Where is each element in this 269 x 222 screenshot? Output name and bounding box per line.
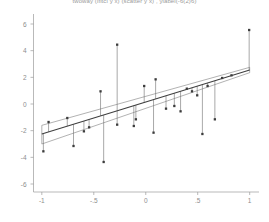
data-point-marker xyxy=(66,117,68,119)
chart-root: twoway (lfitci y x) (scatter y x) , ylab… xyxy=(0,0,269,222)
x-axis-tick-label: 1 xyxy=(240,197,260,204)
x-axis-tick-label: 0 xyxy=(136,197,156,204)
confidence-band xyxy=(42,67,250,144)
data-point-marker xyxy=(214,118,216,120)
data-point-marker xyxy=(72,145,74,147)
data-point-marker xyxy=(116,124,118,126)
y-axis-tick-label: -6 xyxy=(13,181,27,188)
data-point-marker xyxy=(88,126,90,128)
y-axis-tick-label: -4 xyxy=(13,154,27,161)
y-axis-tick-label: -2 xyxy=(13,127,27,134)
data-point-marker xyxy=(47,121,49,123)
data-point-marker xyxy=(206,85,208,87)
plot-canvas xyxy=(0,0,269,222)
fitted-line xyxy=(42,70,250,134)
data-point-marker xyxy=(42,150,44,152)
data-point-marker xyxy=(83,130,85,132)
data-point-marker xyxy=(165,108,167,110)
data-point-marker xyxy=(143,85,145,87)
y-axis-tick-label: 6 xyxy=(13,21,27,28)
y-axis-tick-label: 2 xyxy=(13,74,27,81)
y-axis-tick-label: 0 xyxy=(13,101,27,108)
data-point-marker xyxy=(173,105,175,107)
data-point-marker xyxy=(179,110,181,112)
data-point-marker xyxy=(191,90,193,92)
data-point-marker xyxy=(248,29,250,31)
y-axis-tick-label: 4 xyxy=(13,47,27,54)
data-point-marker xyxy=(133,125,135,127)
data-point-marker xyxy=(135,118,137,120)
data-point-marker xyxy=(201,133,203,135)
data-point-marker xyxy=(99,90,101,92)
x-axis-tick-label: -.5 xyxy=(84,197,104,204)
data-point-marker xyxy=(154,78,156,80)
data-point-marker xyxy=(196,94,198,96)
data-point-marker xyxy=(103,161,105,163)
data-point-marker xyxy=(116,44,118,46)
x-axis-tick-label: .5 xyxy=(188,197,208,204)
data-point-marker xyxy=(152,132,154,134)
x-axis-tick-label: -1 xyxy=(32,197,52,204)
